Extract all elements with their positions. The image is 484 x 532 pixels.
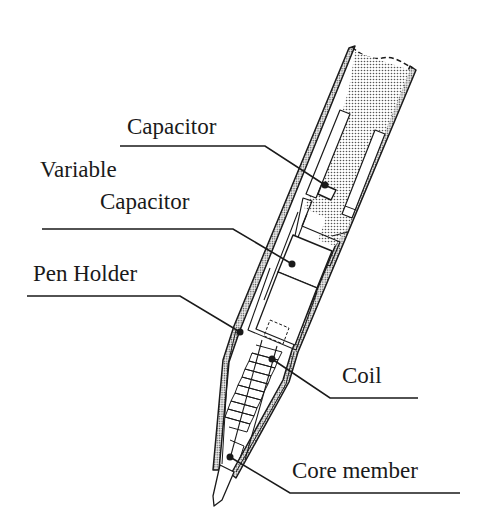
- leader-pen-holder: [27, 296, 240, 332]
- label-variable-capacitor-line2: Capacitor: [100, 190, 189, 213]
- pen-body: [213, 46, 416, 506]
- label-capacitor: Capacitor: [127, 115, 216, 138]
- label-variable-capacitor-line1: Variable: [40, 158, 117, 181]
- dot-core-member: [227, 454, 234, 461]
- leader-variable-capacitor: [42, 229, 292, 264]
- dot-variable-capacitor: [289, 261, 296, 268]
- pen-nib: [213, 465, 234, 506]
- inner-body-fill: [304, 52, 410, 246]
- dot-coil: [269, 356, 276, 363]
- dot-pen-holder: [237, 329, 244, 336]
- dot-capacitor: [322, 182, 329, 189]
- label-coil: Coil: [342, 364, 382, 387]
- label-pen-holder: Pen Holder: [33, 262, 137, 285]
- label-core-member: Core member: [292, 459, 418, 482]
